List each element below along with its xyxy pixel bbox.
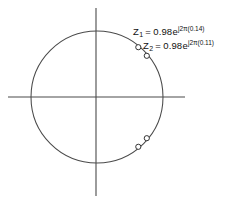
pole-label-z2-equals: = — [153, 40, 163, 51]
pole-label-z2: Z2=0.98ej2π(0.11) — [143, 40, 214, 52]
pole-marker-z2-conjugate — [144, 136, 149, 141]
pole-label-z1-equals: = — [143, 26, 153, 37]
pole-label-z1-exponent: j2π(0.14) — [178, 25, 205, 32]
pole-marker-z1-conjugate — [136, 144, 141, 149]
pole-label-z2-exponent: j2π(0.11) — [188, 39, 214, 46]
pole-label-z1-magnitude: 0.98 — [153, 26, 172, 37]
unit-circle-figure: Z1=0.98ej2π(0.14) Z2=0.98ej2π(0.11) — [0, 0, 228, 204]
pole-marker-z2 — [144, 53, 149, 58]
pole-marker-z1 — [136, 45, 141, 50]
pole-label-z2-magnitude: 0.98 — [163, 40, 182, 51]
pole-label-z1: Z1=0.98ej2π(0.14) — [133, 26, 204, 38]
